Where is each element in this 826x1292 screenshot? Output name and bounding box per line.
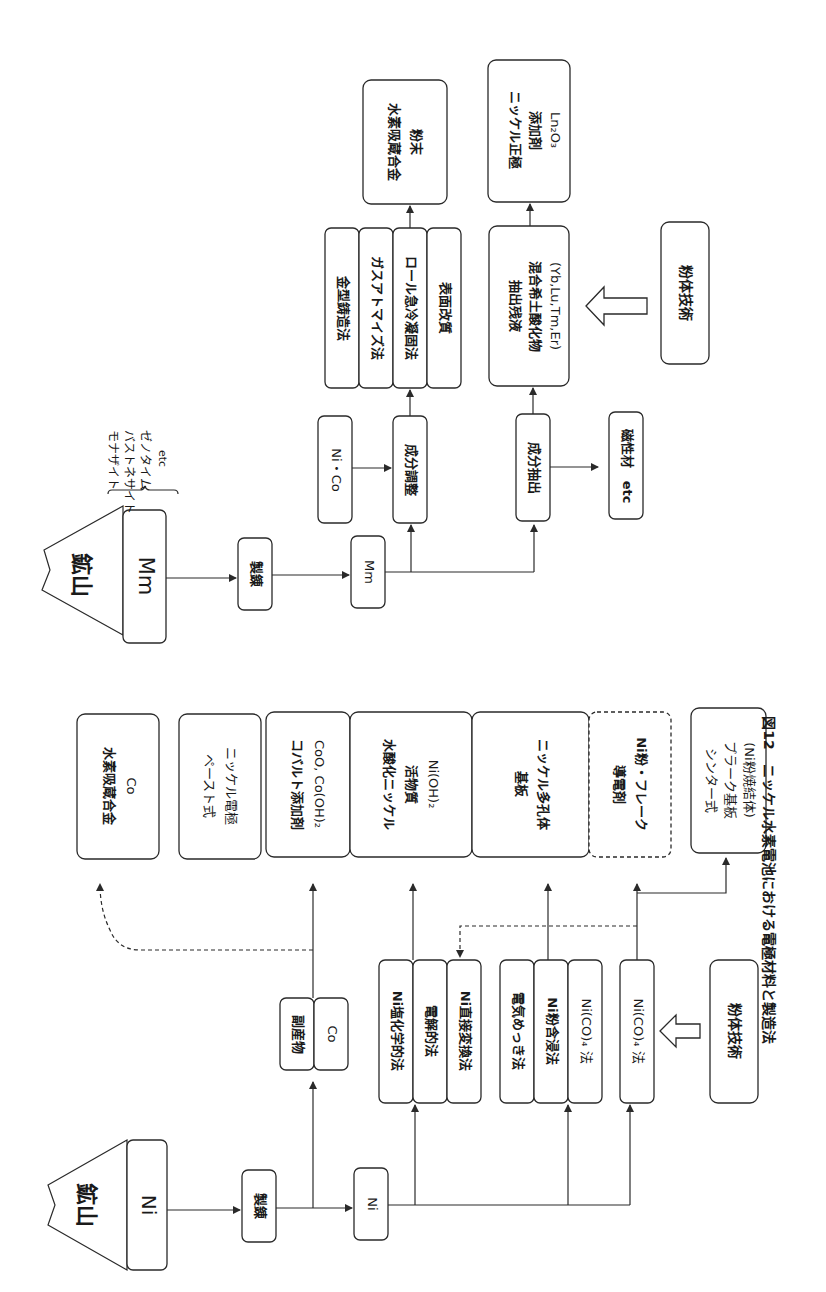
- svg-text:Ni(OH)₂: Ni(OH)₂: [426, 760, 441, 809]
- ni-mine-metal: Ni: [137, 1195, 161, 1216]
- svg-text:Ni粉含浸法: Ni粉含浸法: [545, 997, 560, 1064]
- svg-text:etc: etc: [156, 450, 169, 467]
- svg-text:Ni粉・フレーク: Ni粉・フレーク: [634, 737, 649, 830]
- extraction-box: 成分抽出: [516, 414, 550, 521]
- svg-text:Ni: Ni: [365, 1197, 380, 1210]
- ni-method-group-3: Ni(CO)₄ 法: [620, 960, 654, 1103]
- svg-text:Mm: Mm: [134, 557, 158, 596]
- mm-powder-tech-box: 粉体技術: [661, 222, 709, 364]
- product-paste-electrode: ペースト式 ニッケル電極: [179, 714, 261, 859]
- svg-text:ペースト式: ペースト式: [202, 754, 217, 818]
- svg-text:水酸化ニッケル: 水酸化ニッケル: [382, 739, 397, 830]
- svg-text:ニッケル正極: ニッケル正極: [508, 91, 523, 169]
- svg-text:Co: Co: [124, 777, 139, 794]
- svg-text:Ni(CO)₄ 法: Ni(CO)₄ 法: [579, 998, 594, 1063]
- svg-text:コバルト添加剤: コバルト添加剤: [290, 739, 305, 830]
- product-conductive-agent: 導電剤 Ni粉・フレーク: [589, 712, 671, 857]
- svg-text:副産物: 副産物: [291, 1015, 306, 1054]
- svg-text:(Ni粉焼結体): (Ni粉焼結体): [742, 742, 757, 817]
- magnetic-material-box: 磁性材 etc: [609, 412, 643, 519]
- svg-text:シンター式: シンター式: [704, 748, 719, 813]
- svg-text:Ln₂O₃: Ln₂O₃: [548, 112, 563, 148]
- ni-powder-tech-arrow: [660, 1015, 700, 1047]
- svg-text:抽出残液: 抽出残液: [508, 280, 523, 332]
- svg-text:バストネサイト: バストネサイト: [122, 430, 136, 514]
- alloy-powder-box: 水素吸蔵合金 粉末: [363, 80, 447, 204]
- svg-text:ゼノタイム: ゼノタイム: [138, 430, 152, 490]
- composition-adjust-box: 成分調整: [393, 416, 427, 523]
- svg-text:CoO, Co(OH)₂: CoO, Co(OH)₂: [312, 740, 327, 828]
- ni-mine: 鉱山 Ni: [48, 1140, 167, 1270]
- residue-box: 抽出残液 混合希土酸化物 (Yb,Lu,Tm,Er): [489, 226, 569, 386]
- svg-text:Co: Co: [325, 1025, 340, 1042]
- svg-text:ガスアトマイズ法: ガスアトマイズ法: [370, 256, 385, 360]
- byproduct-box: 副産物 Co: [280, 998, 348, 1070]
- svg-text:ニッケル電極: ニッケル電極: [224, 747, 239, 825]
- svg-text:ロール急冷凝固法: ロール急冷凝固法: [404, 256, 419, 360]
- svg-text:基板: 基板: [514, 770, 529, 798]
- svg-text:Mm: Mm: [362, 560, 377, 584]
- alloy-method-group: 金型鋳造法 ガスアトマイズ法 ロール急冷凝固法 表面改質: [325, 228, 461, 388]
- mm-mine: 鉱山 Mm: [42, 506, 166, 643]
- ni-node-box: Ni: [354, 1168, 388, 1240]
- figure-caption: 図12 ニッケル水素電池における電極材料と製造法: [761, 716, 777, 1043]
- figure-canvas: 鉱山 Ni 製錬 Ni 副産物 Co: [0, 0, 826, 1292]
- svg-text:プラーク基板: プラーク基板: [723, 741, 738, 819]
- svg-text:電気めっき法: 電気めっき法: [511, 992, 526, 1070]
- svg-text:モナザイト: モナザイト: [106, 430, 120, 490]
- ore-list: モナザイト バストネサイト ゼノタイム etc: [106, 430, 179, 514]
- ni-method-group-2: 電気めっき法 Ni粉含浸法 Ni(CO)₄ 法: [500, 960, 602, 1103]
- svg-text:水素吸蔵合金: 水素吸蔵合金: [387, 103, 402, 182]
- mm-node-box: Mm: [351, 536, 385, 608]
- svg-text:Ni・Co: Ni・Co: [329, 448, 344, 491]
- mm-refining-box: 製錬: [238, 538, 272, 610]
- svg-text:鉱山: 鉱山: [69, 553, 94, 597]
- svg-text:粉体技術: 粉体技術: [727, 1003, 743, 1059]
- positive-additive-box: ニッケル正極 添加剤 Ln₂O₃: [488, 60, 570, 202]
- svg-text:導電剤: 導電剤: [612, 765, 627, 804]
- product-hydrogen-alloy-co: 水素吸蔵合金 Co: [77, 714, 159, 859]
- svg-text:Ni塩化学的法: Ni塩化学的法: [390, 991, 405, 1071]
- svg-text:金型鋳造法: 金型鋳造法: [336, 275, 351, 341]
- svg-text:製錬: 製錬: [249, 560, 264, 588]
- svg-text:成分抽出: 成分抽出: [527, 442, 542, 494]
- product-sinter-plate: シンター式 プラーク基板 (Ni粉焼結体): [691, 708, 766, 853]
- svg-text:磁性材 etc: 磁性材 etc: [620, 429, 635, 504]
- svg-text:Ni直接変換法: Ni直接変換法: [458, 991, 473, 1071]
- mm-powder-tech-arrow: [586, 287, 647, 325]
- svg-text:活物質: 活物質: [404, 765, 419, 804]
- svg-text:電解的法: 電解的法: [424, 1005, 439, 1057]
- ni-method-group-1: Ni塩化学的法 電解的法 Ni直接変換法: [379, 960, 481, 1103]
- product-cobalt-additive: コバルト添加剤 CoO, Co(OH)₂: [266, 712, 350, 857]
- svg-text:表面改質: 表面改質: [438, 281, 453, 334]
- svg-text:水素吸蔵合金: 水素吸蔵合金: [102, 747, 117, 826]
- svg-text:Ni(CO)₄ 法: Ni(CO)₄ 法: [631, 998, 646, 1063]
- ni-refining-box: 製錬: [242, 1170, 276, 1242]
- svg-text:ニッケル多孔体: ニッケル多孔体: [536, 739, 551, 831]
- ni-mine-label: 鉱山: [74, 1183, 99, 1227]
- svg-text:(Yb,Lu,Tm,Er): (Yb,Lu,Tm,Er): [548, 262, 563, 350]
- svg-text:粉体技術: 粉体技術: [678, 265, 694, 321]
- ni-powder-tech-box: 粉体技術: [710, 960, 758, 1103]
- ni-co-box: Ni・Co: [318, 416, 352, 523]
- svg-text:製錬: 製錬: [253, 1192, 268, 1220]
- svg-text:成分調整: 成分調整: [404, 444, 419, 497]
- product-substrate: 基板 ニッケル多孔体: [472, 712, 589, 857]
- svg-text:添加剤: 添加剤: [528, 111, 543, 150]
- svg-text:混合希土酸化物: 混合希土酸化物: [528, 261, 543, 352]
- svg-text:粉末: 粉末: [409, 129, 424, 156]
- product-active-material: 水酸化ニッケル 活物質 Ni(OH)₂: [350, 712, 472, 857]
